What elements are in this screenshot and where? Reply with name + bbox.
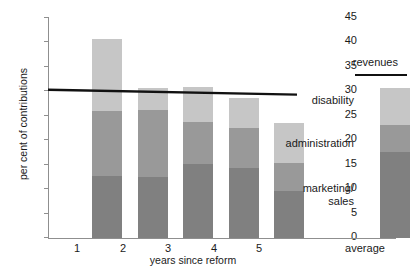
annotation-revenues: revenues (286, 56, 398, 69)
annotation-administration: administration (225, 137, 354, 150)
x-axis-line (48, 238, 396, 239)
annotation-marketing-sales: marketing/ sales (244, 182, 354, 208)
revenues-legend-rule (355, 74, 407, 76)
x-tick-5: 5 (229, 243, 289, 254)
x-tick-average: average (335, 243, 395, 254)
y-axis-title: per cent of contributions (17, 39, 29, 209)
x-axis-title: years since reform (118, 254, 268, 266)
annotation-disability: disability (250, 94, 354, 107)
